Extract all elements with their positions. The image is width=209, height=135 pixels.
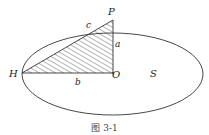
figure-3-1: P c a H b O S 图 3-1 [0,0,209,135]
label-segment-c: c [86,21,91,30]
diagram-canvas [0,0,209,135]
label-segment-a: a [115,40,120,49]
label-point-P: P [108,7,115,17]
label-segment-b: b [75,78,81,87]
label-point-H: H [9,69,18,79]
label-region-S: S [150,69,157,79]
label-point-O: O [112,70,120,80]
figure-caption: 图 3-1 [0,121,209,134]
